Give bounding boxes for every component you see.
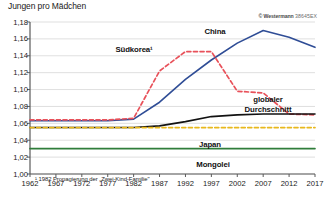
series-label-mongolei: Mongolei (180, 160, 246, 169)
y-axis-tick-label: 1,18 (0, 18, 28, 27)
series-label-japan: Japan (180, 140, 240, 149)
y-axis-tick-label: 1,06 (0, 119, 28, 128)
series-label-global-line1: globaler (230, 95, 306, 104)
chart-footnote: ¹ 1982 Propagierung der „Zwei-Kind-Famil… (35, 176, 150, 182)
y-axis-tick-label: 1,00 (0, 170, 28, 179)
series-label-china: China (185, 27, 245, 36)
y-axis-tick-label: 1,12 (0, 68, 28, 77)
series-label-suedkorea: Südkorea¹ (104, 45, 164, 54)
y-axis-tick-label: 1,10 (0, 85, 28, 94)
series-label-global-line2: Durchschnitt (228, 105, 308, 114)
x-axis-tick-label: 2017 (298, 179, 328, 188)
y-axis-tick-label: 1,02 (0, 153, 28, 162)
y-axis-tick-label: 1,14 (0, 51, 28, 60)
y-axis-tick-label: 1,16 (0, 34, 28, 43)
y-axis-tick-label: 1,04 (0, 136, 28, 145)
y-axis-tick-label: 1,08 (0, 102, 28, 111)
